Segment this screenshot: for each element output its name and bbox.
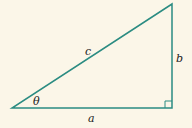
horizontal-side-label: a	[88, 112, 95, 125]
angle-label: θ	[33, 95, 40, 108]
vertical-side-label: b	[176, 52, 183, 65]
hypotenuse-label: c	[85, 45, 91, 58]
right-triangle-diagram: c b a θ	[0, 0, 192, 128]
right-angle-marker	[165, 101, 172, 108]
triangle-shape	[12, 4, 172, 108]
